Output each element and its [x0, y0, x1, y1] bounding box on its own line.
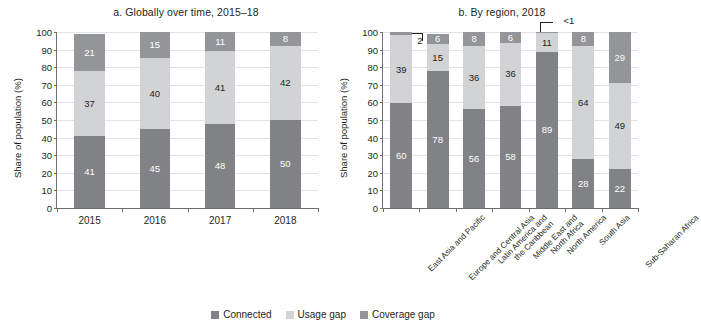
y-axis-tick-label: 0	[373, 203, 378, 214]
x-axis-tick-mark	[602, 208, 603, 212]
segment-connected: 22	[609, 169, 631, 208]
y-axis-tick-label: 40	[41, 132, 52, 143]
segment-coverage-gap: 6	[500, 32, 522, 43]
y-axis-tick-mark	[380, 102, 384, 103]
segment-coverage-gap-value: 6	[508, 33, 513, 43]
segment-connected-value: 22	[614, 184, 625, 194]
segment-usage-gap-value: 41	[215, 83, 226, 93]
y-axis-tick-mark	[54, 120, 58, 121]
segment-usage-gap: 36	[463, 46, 485, 109]
bar-region-3[interactable]: 58366	[500, 32, 522, 208]
segment-coverage-gap: 11	[205, 32, 235, 51]
segment-coverage-gap-value: 8	[581, 34, 586, 44]
legend-swatch-icon	[211, 311, 219, 319]
y-axis-tick-label: 90	[367, 44, 378, 55]
segment-coverage-gap-value: 29	[614, 53, 625, 63]
legend: ConnectedUsage gapCoverage gap	[0, 309, 646, 320]
segment-usage-gap-value: 37	[84, 99, 95, 109]
segment-coverage-gap: 15	[140, 32, 170, 58]
panel-b-title: b. By region, 2018	[332, 6, 646, 18]
segment-coverage-gap: 8	[572, 32, 594, 46]
segment-usage-gap-value: 15	[432, 53, 443, 63]
x-axis-label-line1: Sub-Saharan Africa	[644, 213, 701, 270]
segment-connected-value: 41	[84, 167, 95, 177]
y-axis-tick-mark	[54, 138, 58, 139]
segment-coverage-gap: 8	[463, 32, 485, 46]
bar-region-4[interactable]: 8911	[536, 32, 558, 208]
legend-swatch-icon	[286, 311, 294, 319]
y-axis-tick-mark	[54, 155, 58, 156]
x-axis-label-2016: 2016	[144, 215, 166, 226]
bar-region-6[interactable]: 224929	[609, 32, 631, 208]
bar-2015[interactable]: 413721	[74, 32, 104, 208]
segment-connected-value: 50	[280, 159, 291, 169]
segment-coverage-gap	[390, 32, 412, 35]
y-axis-tick-label: 50	[367, 115, 378, 126]
bar-2017[interactable]: 484111	[205, 32, 235, 208]
legend-item-1[interactable]: Usage gap	[286, 309, 346, 320]
segment-connected-value: 28	[578, 179, 589, 189]
segment-usage-gap-value: 49	[614, 121, 625, 131]
x-axis-tick-mark	[529, 208, 530, 212]
segment-usage-gap: 11	[536, 33, 558, 52]
bar-region-1[interactable]: 78156	[427, 32, 449, 208]
y-axis-tick-mark	[380, 67, 384, 68]
segment-connected: 41	[74, 136, 104, 208]
y-axis-tick-label: 30	[41, 150, 52, 161]
bar-2018[interactable]: 50428	[270, 32, 300, 208]
legend-label: Connected	[223, 309, 271, 320]
segment-coverage-gap: 21	[74, 34, 104, 71]
y-axis-tick-label: 100	[36, 27, 52, 38]
segment-connected-value: 60	[396, 151, 407, 161]
segment-coverage-gap	[536, 32, 558, 33]
y-axis-tick-mark	[380, 190, 384, 191]
legend-swatch-icon	[360, 311, 368, 319]
segment-usage-gap: 36	[500, 43, 522, 106]
legend-item-0[interactable]: Connected	[211, 309, 271, 320]
y-axis-tick-label: 10	[41, 185, 52, 196]
segment-connected: 45	[140, 129, 170, 208]
x-axis-tick-mark	[188, 208, 189, 212]
bar-region-0[interactable]: 6039	[390, 32, 412, 208]
x-axis-tick-mark	[419, 208, 420, 212]
panel-a-plot-area: 1009080706050403020100413721201545401520…	[56, 32, 318, 209]
segment-connected: 28	[572, 159, 594, 208]
y-axis-tick-mark	[54, 85, 58, 86]
bar-region-2[interactable]: 56368	[463, 32, 485, 208]
segment-coverage-gap-value: 11	[215, 37, 225, 47]
segment-connected-value: 48	[215, 161, 226, 171]
x-axis-label-region-6: Sub-Saharan Africa	[644, 213, 701, 270]
segment-usage-gap: 64	[572, 46, 594, 159]
y-axis-tick-label: 50	[41, 115, 52, 126]
segment-usage-gap: 41	[205, 51, 235, 123]
bar-region-5[interactable]: 28648	[572, 32, 594, 208]
y-axis-tick-mark	[54, 32, 58, 33]
segment-coverage-gap-value: 21	[84, 48, 95, 58]
segment-usage-gap-value: 42	[280, 78, 291, 88]
segment-usage-gap: 37	[74, 71, 104, 136]
y-axis-tick-label: 0	[47, 203, 52, 214]
segment-usage-gap: 42	[270, 46, 300, 120]
segment-usage-gap: 39	[390, 35, 412, 103]
segment-connected-value: 45	[150, 164, 161, 174]
x-axis-tick-mark	[318, 208, 319, 212]
y-axis-tick-label: 70	[367, 79, 378, 90]
y-axis-tick-label: 80	[41, 62, 52, 73]
segment-usage-gap: 15	[427, 44, 449, 70]
panel-a-title: a. Globally over time, 2015–18	[0, 6, 332, 18]
bar-2016[interactable]: 454015	[140, 32, 170, 208]
panel-b-by-region: b. By region, 2018 Share of population (…	[332, 0, 646, 300]
legend-item-2[interactable]: Coverage gap	[360, 309, 435, 320]
x-axis-label-2017: 2017	[209, 215, 231, 226]
x-axis-tick-mark	[638, 208, 639, 212]
y-axis-tick-label: 60	[41, 97, 52, 108]
y-axis-tick-mark	[380, 155, 384, 156]
y-axis-tick-mark	[380, 50, 384, 51]
segment-connected: 56	[463, 109, 485, 208]
segment-usage-gap: 49	[609, 83, 631, 169]
y-axis-tick-label: 20	[41, 167, 52, 178]
segment-usage-gap-value: 64	[578, 98, 589, 108]
y-axis-tick-mark	[54, 173, 58, 174]
y-axis-tick-mark	[54, 50, 58, 51]
